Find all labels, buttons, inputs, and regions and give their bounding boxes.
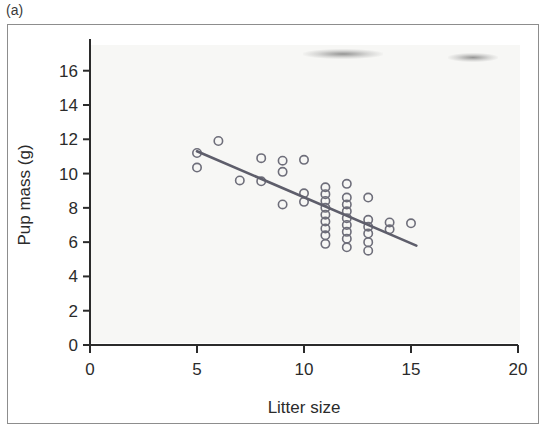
y-tick-label: 10 — [59, 165, 78, 184]
scatter-chart: 0246810121416 05101520 Litter size Pup m… — [8, 25, 538, 423]
y-axis-ticks: 0246810121416 — [59, 62, 90, 355]
y-tick-label: 12 — [59, 130, 78, 149]
figure-panel: (a) 0246810121416 05101520 Litter size P… — [0, 0, 547, 434]
y-tick-label: 8 — [69, 199, 78, 218]
y-tick-label: 14 — [59, 96, 78, 115]
x-axis-ticks: 05101520 — [85, 345, 527, 379]
y-tick-label: 2 — [69, 302, 78, 321]
panel-label: (a) — [6, 2, 23, 18]
y-tick-label: 16 — [59, 62, 78, 81]
x-tick-label: 0 — [85, 360, 94, 379]
x-tick-label: 20 — [509, 360, 528, 379]
y-tick-label: 0 — [69, 336, 78, 355]
y-tick-label: 6 — [69, 233, 78, 252]
y-tick-label: 4 — [69, 267, 78, 286]
x-tick-label: 15 — [402, 360, 421, 379]
plot-background — [90, 45, 520, 343]
plot-frame: 0246810121416 05101520 Litter size Pup m… — [7, 24, 539, 424]
x-tick-label: 10 — [295, 360, 314, 379]
x-tick-label: 5 — [192, 360, 201, 379]
y-axis-title: Pup mass (g) — [15, 144, 34, 245]
x-axis-title: Litter size — [268, 398, 341, 417]
